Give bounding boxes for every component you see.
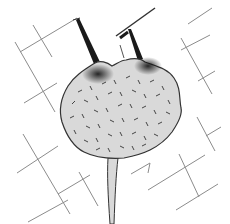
illustration-canvas: [0, 0, 230, 224]
cell-drawing: [0, 0, 230, 224]
shadow-left: [82, 64, 114, 84]
stalk: [108, 158, 118, 224]
shadow-right: [134, 57, 162, 75]
cell-body: [60, 59, 181, 159]
spikes: [73, 8, 155, 64]
